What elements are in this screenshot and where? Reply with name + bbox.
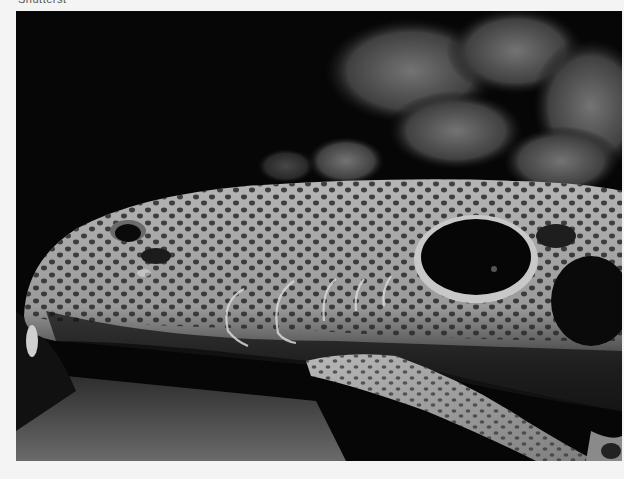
snout-highlight [26, 325, 38, 357]
cutoff-caption: Shutterst [18, 0, 67, 5]
shark-photo [16, 11, 622, 461]
spiracle [141, 248, 171, 264]
shark-eye [110, 220, 146, 242]
